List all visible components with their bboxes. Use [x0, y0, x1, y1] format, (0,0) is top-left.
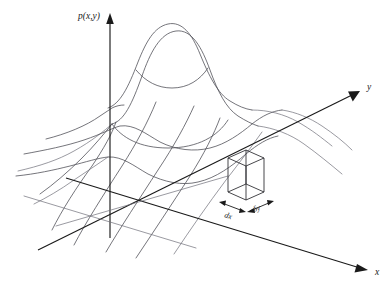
dy-arrowhead-right [267, 200, 274, 206]
mesh-curve-tail-right-upper [252, 110, 332, 146]
mesh-curve-shoulder-upper [136, 68, 208, 88]
mesh-curve-ridge-rear [46, 105, 124, 139]
mesh-curve-peak-b [112, 31, 258, 126]
density-surface-figure: p(x,y) y x dx δy [0, 0, 389, 287]
mesh-section-flank-left [40, 124, 112, 194]
y-axis-label: y [366, 82, 372, 92]
dx-arrowhead-right [239, 208, 246, 213]
mesh-curve-tail-right-far [282, 110, 352, 150]
dy-label: δy [252, 203, 262, 214]
differential-volume-box [219, 150, 274, 213]
labels-group: p(x,y) y x dx δy [77, 11, 380, 277]
x-axis-arrowhead [355, 264, 369, 273]
density-axis-label: p(x,y) [77, 11, 100, 22]
mesh-profiles-group [16, 24, 352, 184]
figure-container: p(x,y) y x dx δy [0, 0, 389, 287]
vertical-axis-arrowhead [106, 13, 114, 24]
ground-guide-line-b [56, 176, 228, 226]
mesh-curve-peak-a [108, 24, 252, 110]
dx-arrowhead-left [219, 201, 226, 207]
mesh-curve-midwave [24, 110, 282, 154]
mesh-curve-tail-right-lower [258, 126, 342, 174]
mesh-curve-shoulder [112, 120, 228, 148]
x-axis-label: x [374, 267, 380, 277]
dx-label: dx [223, 210, 233, 221]
